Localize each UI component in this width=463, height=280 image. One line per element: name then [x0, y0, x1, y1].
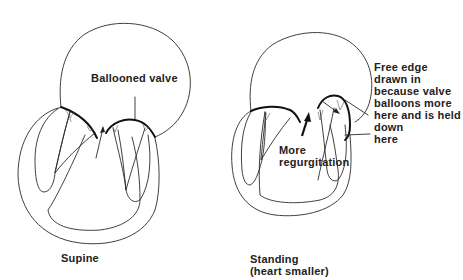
standing-heart	[232, 33, 372, 216]
standing-anterior-leaflet	[251, 107, 300, 122]
ballooned-valve-label: Ballooned valve	[91, 72, 178, 84]
supine-caption: Supine	[61, 252, 99, 264]
more-regurgitation-line-1: More	[279, 144, 349, 156]
supine-heart	[18, 23, 190, 243]
supine-anterior-leaflet	[61, 107, 97, 138]
free-edge-line-3: because valve	[374, 85, 461, 97]
mitral-valve-prolapse-diagram: Ballooned valve Supine Standing (heart s…	[0, 0, 463, 280]
standing-caption-line-1: Standing	[250, 253, 329, 265]
free-edge-line-4: balloons more	[374, 97, 461, 109]
standing-caption: Standing (heart smaller)	[250, 253, 329, 277]
standing-chordae-3	[337, 100, 344, 110]
standing-caption-line-2: (heart smaller)	[250, 265, 329, 277]
free-edge-line-7: here	[374, 133, 461, 145]
free-edge-line-6: down	[374, 121, 461, 133]
standing-arrowhead	[304, 112, 311, 122]
free-edge-line-1: Free edge	[374, 61, 461, 73]
supine-right-chord	[113, 128, 145, 190]
more-regurgitation-line-2: regurgitation	[279, 156, 349, 168]
standing-left-atrium	[250, 33, 372, 122]
supine-arrowhead	[100, 126, 105, 133]
supine-ventricle-cavity	[48, 135, 140, 230]
supine-right-inner-wall	[118, 130, 150, 202]
more-regurgitation-label: More regurgitation	[279, 144, 349, 168]
supine-left-chord	[55, 112, 95, 173]
free-edge-line-5: here and is held	[374, 109, 461, 121]
free-edge-line-2: drawn in	[374, 73, 461, 85]
free-edge-annotation: Free edge drawn in because valve balloon…	[374, 61, 461, 145]
